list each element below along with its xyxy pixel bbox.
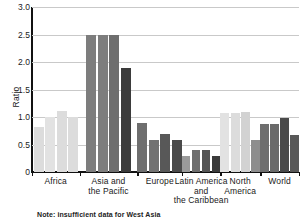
bar bbox=[137, 123, 147, 172]
y-tick-label: 1.5 bbox=[2, 85, 30, 95]
bar-group bbox=[260, 7, 299, 172]
bar bbox=[241, 112, 250, 172]
y-tick-label: 2.0 bbox=[2, 57, 30, 67]
bar bbox=[192, 150, 200, 172]
y-tick-label: 2.5 bbox=[2, 30, 30, 40]
y-tick-label: 0 bbox=[2, 167, 30, 177]
bar bbox=[251, 140, 260, 172]
chart-title-cropped: and the Pacific bbox=[60, 0, 260, 2]
bar-group bbox=[182, 7, 220, 172]
bar bbox=[182, 156, 190, 173]
x-axis-label-line: America bbox=[204, 187, 276, 197]
bar-group bbox=[32, 7, 80, 172]
bar-chart: and the Pacific Ratio 3.02.52.01.51.00.5… bbox=[0, 0, 301, 224]
bar bbox=[86, 35, 96, 173]
bar bbox=[172, 140, 182, 172]
bar bbox=[231, 113, 240, 172]
bar bbox=[149, 140, 159, 172]
x-axis-tick-origin bbox=[32, 172, 33, 176]
bar bbox=[160, 134, 170, 173]
bar bbox=[98, 35, 108, 173]
bar-group bbox=[220, 7, 260, 172]
x-axis-tick bbox=[299, 172, 300, 176]
x-axis-tick bbox=[80, 172, 81, 176]
bar bbox=[109, 35, 119, 173]
y-axis-ticks: 3.02.52.01.51.00.50 bbox=[0, 0, 30, 224]
bar bbox=[57, 111, 67, 172]
x-axis-tick bbox=[137, 172, 138, 176]
bar-group bbox=[80, 7, 138, 172]
bar bbox=[260, 124, 269, 172]
bar bbox=[270, 124, 279, 172]
bar bbox=[202, 150, 210, 172]
bar bbox=[280, 118, 289, 172]
x-axis-tick bbox=[260, 172, 261, 176]
x-axis-label-line: World bbox=[244, 177, 301, 187]
bar bbox=[34, 127, 44, 172]
plot-area bbox=[32, 7, 299, 172]
bar bbox=[68, 117, 78, 172]
chart-note: Note: insufficient data for West Asia bbox=[37, 211, 161, 218]
y-tick-label: 1.0 bbox=[2, 112, 30, 122]
y-tick-label: 3.0 bbox=[2, 2, 30, 12]
x-axis-label-line: the Pacific bbox=[72, 187, 144, 197]
bar bbox=[290, 135, 299, 172]
y-tick-label: 0.5 bbox=[2, 140, 30, 150]
x-axis-label: World bbox=[244, 177, 301, 187]
bar bbox=[212, 156, 220, 172]
bar-group bbox=[137, 7, 182, 172]
bar bbox=[121, 68, 131, 173]
bar bbox=[45, 117, 55, 172]
x-axis-label-line: the Caribbean bbox=[165, 196, 237, 206]
bar bbox=[220, 113, 229, 172]
